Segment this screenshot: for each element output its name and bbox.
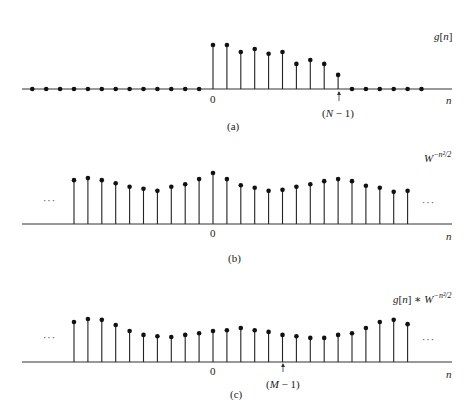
stem-marker xyxy=(141,333,146,338)
stem-marker xyxy=(336,333,341,338)
zero-label-a: 0 xyxy=(210,93,216,105)
ellipsis-right-c: ··· xyxy=(422,334,435,345)
stem-marker xyxy=(72,320,77,325)
stem-marker xyxy=(155,334,160,339)
stem-marker xyxy=(127,329,132,334)
stem-marker xyxy=(378,87,383,92)
stem-marker xyxy=(86,317,91,322)
signal-label-c: g[n] ∗ W−n²/2 xyxy=(393,291,452,305)
stem-marker xyxy=(225,43,230,48)
stems-c xyxy=(72,317,410,362)
stem-marker xyxy=(183,333,188,338)
stem-marker xyxy=(391,87,396,92)
stem-marker xyxy=(252,47,257,52)
stem-marker xyxy=(239,50,244,55)
stem-marker xyxy=(391,318,396,323)
stem-marker xyxy=(252,328,257,333)
stem-marker xyxy=(155,189,160,194)
stem-marker xyxy=(266,189,271,194)
stem-marker xyxy=(72,87,77,92)
ellipsis-left-c: ··· xyxy=(43,332,56,343)
stem-marker xyxy=(294,334,299,339)
stem-marker xyxy=(113,323,118,328)
stem-marker xyxy=(141,87,146,92)
stem-marker xyxy=(405,322,410,327)
stems-b xyxy=(72,171,410,224)
stem-marker xyxy=(322,62,327,67)
stem-marker xyxy=(322,336,327,341)
signal-label-b: W−n²/2 xyxy=(424,150,451,164)
stem-marker xyxy=(113,87,118,92)
stems-a xyxy=(30,43,424,92)
stem-marker xyxy=(350,179,355,184)
stem-marker xyxy=(30,87,35,92)
stem-marker xyxy=(155,87,160,92)
stem-marker xyxy=(86,176,91,181)
caption-b: (b) xyxy=(228,252,241,265)
panel-a: g[n] 0 n (N − 1) (a) xyxy=(22,30,452,133)
stem-marker xyxy=(58,87,63,92)
stem-marker xyxy=(252,185,257,190)
signal-label-a: g[n] xyxy=(434,30,452,42)
stem-marker xyxy=(100,318,105,323)
marker-label-a: (N − 1) xyxy=(322,107,354,120)
arrow-head-icon xyxy=(281,363,285,367)
marker-label-c: (M − 1) xyxy=(266,378,300,391)
stem-marker xyxy=(350,331,355,336)
stem-marker xyxy=(211,43,216,48)
panel-c: g[n] ∗ W−n²/2 ··· ··· 0 n (M − 1) (c) xyxy=(22,291,452,400)
stem-marker xyxy=(239,183,244,188)
stem-marker xyxy=(266,330,271,335)
axis-label-b: n xyxy=(446,230,452,242)
stem-marker xyxy=(336,73,341,78)
figure: g[n] 0 n (N − 1) (a) W−n²/2 ··· ··· 0 n … xyxy=(0,0,472,400)
stem-marker xyxy=(211,329,216,334)
stem-marker xyxy=(322,179,327,184)
stem-marker xyxy=(197,331,202,336)
stem-marker xyxy=(197,87,202,92)
stem-marker xyxy=(378,320,383,325)
stem-marker xyxy=(280,50,285,55)
stem-marker xyxy=(197,177,202,182)
stem-marker xyxy=(127,87,132,92)
caption-a: (a) xyxy=(227,120,240,133)
stem-marker xyxy=(100,178,105,183)
stem-marker xyxy=(294,184,299,189)
stem-marker xyxy=(169,87,174,92)
stem-marker xyxy=(350,87,355,92)
stem-marker xyxy=(211,171,216,176)
stem-marker xyxy=(336,177,341,182)
stem-marker xyxy=(364,87,369,92)
stem-marker xyxy=(308,58,313,63)
axis-label-a: n xyxy=(446,94,452,106)
stem-marker xyxy=(364,326,369,331)
stem-marker xyxy=(405,87,410,92)
stem-marker xyxy=(405,189,410,194)
stem-marker xyxy=(391,190,396,195)
stem-marker xyxy=(100,87,105,92)
zero-label-b: 0 xyxy=(210,227,216,239)
stem-marker xyxy=(44,87,49,92)
stem-marker xyxy=(225,328,230,333)
caption-c: (c) xyxy=(230,388,243,400)
stem-marker xyxy=(86,87,91,92)
stem-marker xyxy=(308,182,313,187)
stem-marker xyxy=(169,184,174,189)
stem-marker xyxy=(419,87,424,92)
stem-marker xyxy=(183,87,188,92)
stem-marker xyxy=(280,333,285,338)
stem-marker xyxy=(225,177,230,182)
stem-marker xyxy=(308,336,313,341)
stem-marker xyxy=(294,62,299,67)
stem-marker xyxy=(280,188,285,193)
stem-marker xyxy=(72,178,77,183)
stem-marker xyxy=(364,183,369,188)
ellipsis-left-b: ··· xyxy=(43,195,56,206)
stem-marker xyxy=(239,326,244,331)
arrow-head-icon xyxy=(337,91,341,95)
stem-marker xyxy=(266,52,271,57)
panel-b: W−n²/2 ··· ··· 0 n (b) xyxy=(22,150,452,265)
axis-label-c: n xyxy=(446,368,452,380)
ellipsis-right-b: ··· xyxy=(422,197,435,208)
stem-marker xyxy=(141,187,146,192)
